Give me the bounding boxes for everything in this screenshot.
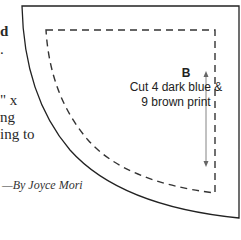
cut-instruction-line-1: Cut 4 dark blue & [126,80,226,94]
cut-instruction-line-2: 9 brown print [126,95,226,109]
seam-line [46,30,215,193]
author-credit: —By Joyce Mori [2,178,83,193]
piece-label: B [156,66,216,80]
